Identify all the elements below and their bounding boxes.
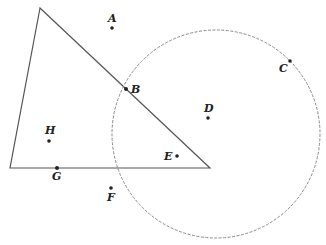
point-c: C xyxy=(279,59,292,75)
point-c-dot xyxy=(288,59,292,63)
point-f: F xyxy=(106,186,116,204)
triangle xyxy=(10,8,210,168)
point-e: E xyxy=(163,150,179,163)
point-e-dot xyxy=(175,154,179,158)
point-d-label: D xyxy=(203,102,214,115)
point-d: D xyxy=(203,102,214,120)
point-e-label: E xyxy=(163,150,173,163)
point-h-label: H xyxy=(44,124,56,137)
point-g-label: G xyxy=(52,170,61,183)
point-f-dot xyxy=(109,186,113,190)
point-a-label: A xyxy=(107,12,117,25)
point-h-dot xyxy=(47,139,51,143)
point-b: B xyxy=(124,83,140,96)
point-a: A xyxy=(107,12,117,30)
point-a-dot xyxy=(110,26,114,30)
point-h: H xyxy=(44,124,56,143)
point-c-label: C xyxy=(279,62,288,75)
point-b-label: B xyxy=(130,83,140,96)
point-f-label: F xyxy=(106,191,116,204)
diagram-canvas: A B C D E F G H xyxy=(0,0,326,245)
point-b-dot xyxy=(124,87,128,91)
point-d-dot xyxy=(206,116,210,120)
